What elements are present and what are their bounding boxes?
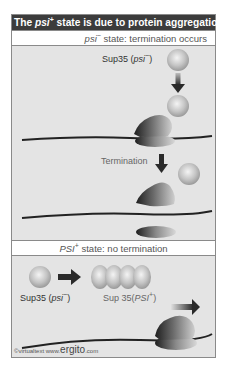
label-close: ) <box>153 293 156 303</box>
readthrough-arrow-icon <box>171 299 200 315</box>
sup35-protein-icon <box>167 49 189 71</box>
sup35-psi-minus-label-2: Sup35 (psi−) <box>20 293 70 303</box>
sup35-aggregate-icon <box>91 265 151 289</box>
released-sup35-icon <box>178 163 200 185</box>
copyright-credit: ©virtualtext www.ergito.com <box>14 344 98 355</box>
mrna-line <box>22 136 212 140</box>
mrna-line <box>22 211 212 218</box>
small-subunit-icon <box>136 226 176 238</box>
label-italic: PSI <box>135 293 150 303</box>
credit-tail: .com <box>85 348 98 354</box>
down-arrow-icon <box>171 73 185 93</box>
sup35-psi-plus-label: Sup 35(PSI+) <box>103 293 156 303</box>
label-italic: psi <box>52 293 64 303</box>
sup35-psi-minus-icon <box>29 266 51 288</box>
label-close: ) <box>67 293 70 303</box>
label-close: ) <box>149 54 152 64</box>
sup35-bound-icon <box>167 95 189 117</box>
label-text: Sup35 ( <box>102 54 134 64</box>
ribosome-icon <box>155 316 197 350</box>
aggregation-arrow-icon <box>58 269 81 285</box>
credit-small: ©virtualtext www. <box>14 348 60 354</box>
label-italic: psi <box>134 54 146 64</box>
credit-brand: ergito <box>60 344 85 355</box>
label-text: Sup35 ( <box>20 293 52 303</box>
large-subunit-icon <box>136 183 175 207</box>
termination-arrow-icon <box>155 154 168 173</box>
sup35-psi-minus-label: Sup35 (psi−) <box>102 54 152 64</box>
label-text: Sup 35( <box>103 293 135 303</box>
ribosome-icon <box>134 115 175 147</box>
termination-label: Termination <box>101 156 148 166</box>
